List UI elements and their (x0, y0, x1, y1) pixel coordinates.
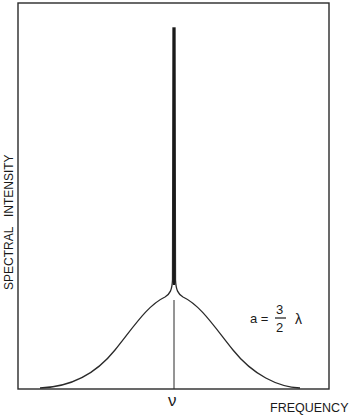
y-axis-label: SPECTRAL INTENSITY (2, 154, 16, 290)
nu-tick-label: ν (168, 391, 177, 410)
svg-text:λ: λ (295, 311, 302, 327)
spectrum-chart: SPECTRAL INTENSITY FREQUENCY ν a = 3 2 λ (0, 0, 356, 419)
svg-text:a =: a = (250, 311, 268, 326)
parameter-annotation: a = 3 2 λ (250, 302, 302, 335)
svg-text:2: 2 (276, 320, 283, 335)
x-axis-label: FREQUENCY (270, 401, 349, 415)
svg-text:3: 3 (276, 302, 283, 317)
broad-band-curve (40, 28, 300, 388)
